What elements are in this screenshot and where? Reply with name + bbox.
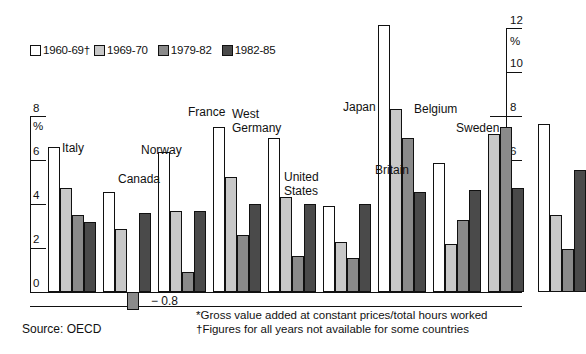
right-tick-10 [506, 72, 522, 73]
zero-baseline [30, 292, 522, 293]
left-axis-label-4: 4 [33, 190, 39, 202]
left-tick-4 [30, 204, 46, 205]
bar-west-germany-1979-82 [292, 256, 304, 292]
country-label-united-states-line2: States [284, 185, 318, 198]
footnote-gross-value: *Gross value added at constant prices/to… [196, 308, 488, 322]
bar-belgium-1982-85 [512, 188, 524, 292]
legend-swatch-1960-69 [30, 45, 41, 56]
bar-united-states-1960-69 [323, 206, 335, 292]
right-tick-12 [506, 28, 522, 29]
bar-norway-1982-85 [194, 211, 206, 292]
right-axis-unit: % [510, 36, 520, 48]
bar-britain-1960-69 [433, 163, 445, 292]
bar-norway-1979-82 [182, 272, 194, 292]
bar-france-1979-82 [237, 235, 249, 292]
right-axis-label-12: 12 [510, 15, 523, 27]
bar-group-italy [48, 147, 96, 292]
bar-britain-1969-70 [445, 244, 457, 292]
country-label-belgium: Belgium [414, 103, 457, 116]
bar-group-japan [378, 25, 426, 292]
bar-france-1969-70 [225, 177, 237, 292]
bar-united-states-1979-82 [347, 258, 359, 292]
source-label: Source: OECD [22, 322, 101, 336]
negative-value-label: − 0.8 [151, 294, 178, 308]
bar-group-west-germany [268, 138, 316, 292]
country-label-norway: Norway [141, 144, 182, 157]
bar-canada-1969-70 [115, 229, 127, 292]
country-label-west-germany-line1: West [232, 108, 259, 121]
bar-united-states-1969-70 [335, 242, 347, 292]
bar-britain-1979-82 [457, 220, 469, 292]
bar-west-germany-1969-70 [280, 197, 292, 292]
left-axis-label-6: 6 [33, 146, 39, 158]
bar-sweden-1982-85 [574, 170, 586, 292]
bar-italy-1969-70 [60, 188, 72, 292]
bar-group-united-states [323, 204, 371, 292]
bar-canada-1979-82 [127, 292, 139, 310]
bar-canada-1982-85 [139, 213, 151, 292]
bar-japan-1969-70 [390, 109, 402, 292]
country-label-west-germany-line2: Germany [232, 122, 281, 135]
bar-west-germany-1960-69 [268, 138, 280, 292]
left-tick-8 [30, 116, 46, 117]
bar-west-germany-1982-85 [304, 204, 316, 292]
bar-britain-1982-85 [469, 190, 481, 292]
country-label-canada: Canada [118, 173, 160, 186]
left-axis-label-0: 0 [33, 278, 39, 290]
bar-italy-1960-69 [48, 147, 60, 292]
bar-belgium-1979-82 [500, 127, 512, 292]
bar-sweden-1979-82 [562, 249, 574, 292]
bar-group-france [213, 127, 261, 292]
bar-sweden-1969-70 [550, 215, 562, 292]
footnotes: *Gross value added at constant prices/to… [196, 308, 488, 336]
bar-japan-1960-69 [378, 25, 390, 292]
bar-group-canada [103, 192, 151, 292]
country-label-italy: Italy [62, 142, 84, 155]
footnote-figures: †Figures for all years not available for… [196, 322, 488, 336]
country-label-sweden: Sweden [456, 122, 499, 135]
bar-canada-1960-69 [103, 192, 115, 292]
right-axis-label-10: 10 [510, 58, 523, 70]
bar-france-1982-85 [249, 204, 261, 292]
bar-group-belgium [488, 127, 524, 292]
left-axis-unit: % [33, 121, 43, 133]
bar-belgium-1969-70 [488, 134, 500, 292]
bar-italy-1979-82 [72, 215, 84, 292]
bar-group-britain [433, 163, 481, 292]
left-axis-label-8: 8 [33, 103, 39, 115]
right-tick-8 [490, 116, 522, 117]
bar-italy-1982-85 [84, 222, 96, 292]
bar-united-states-1982-85 [359, 204, 371, 292]
bar-group-sweden [538, 124, 586, 292]
plot-area [46, 20, 476, 292]
left-tick-6 [30, 160, 46, 161]
bar-japan-1982-85 [414, 192, 426, 292]
bar-group-norway [158, 152, 206, 292]
bar-japan-1979-82 [402, 138, 414, 292]
country-label-japan: Japan [343, 101, 376, 114]
country-label-united-states-line1: United [284, 171, 319, 184]
right-axis-label-8: 8 [510, 102, 516, 114]
bar-norway-1969-70 [170, 211, 182, 292]
bar-sweden-1960-69 [538, 124, 550, 292]
bar-france-1960-69 [213, 127, 225, 292]
country-label-france: France [188, 106, 225, 119]
left-tick-2 [30, 248, 46, 249]
left-axis-label-2: 2 [33, 234, 39, 246]
country-label-britain: Britain [375, 164, 409, 177]
